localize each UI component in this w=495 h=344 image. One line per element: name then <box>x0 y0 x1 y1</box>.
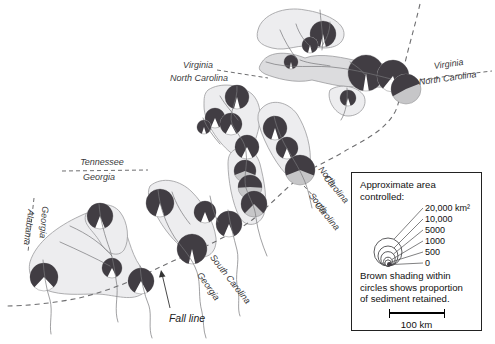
pie-marker <box>285 155 315 185</box>
legend-note: Brown shading within circles shows propo… <box>360 270 473 305</box>
scale-bar: 100 km <box>360 309 473 330</box>
scale-bar-label: 100 km <box>360 319 473 330</box>
legend-note-line3: of sediment retained. <box>360 293 473 305</box>
legend-title-line2: controlled: <box>360 191 473 203</box>
state-label-north-carolina-left: North Carolina <box>170 73 228 83</box>
state-label-alabama-vertical: Alabama <box>22 208 36 245</box>
pie-marker <box>128 268 154 294</box>
pie-marker <box>284 55 298 69</box>
legend-size-svg: 20,000 km² 10,000 5000 1000 500 0 <box>360 204 473 270</box>
pie-marker <box>30 263 58 291</box>
fall-line-arrow-head <box>159 270 166 278</box>
state-label-georgia-vertical: Georgia <box>38 206 51 239</box>
pie-marker <box>177 234 207 264</box>
legend-size-label-10000: 10,000 <box>425 214 453 224</box>
state-label-north-carolina-right: North Carolina <box>418 69 477 87</box>
legend-size-label-0: 0 <box>425 258 430 268</box>
fall-line-label: Fall line <box>169 312 205 324</box>
legend-size-label-20000: 20,000 km² <box>425 204 470 213</box>
scale-bar-rule <box>389 309 445 318</box>
pie-marker <box>87 203 113 229</box>
legend-note-line2: circles shows proportion <box>360 282 473 294</box>
figure-root: VirginiaNorth CarolinaVirginiaNorth Caro… <box>0 0 495 344</box>
pie-marker <box>197 120 211 134</box>
state-boundary-dash <box>62 170 148 171</box>
pie-marker <box>302 37 318 53</box>
legend-title: Approximate area controlled: <box>360 179 473 202</box>
legend-zero-dot <box>387 262 392 267</box>
legend-note-line1: Brown shading within <box>360 270 473 282</box>
state-label-tennessee: Tennessee <box>80 157 124 167</box>
legend-size-label-500: 500 <box>425 247 440 257</box>
state-label-georgia-tennessee: Georgia <box>83 172 115 182</box>
legend-size-label-1000: 1000 <box>425 236 445 246</box>
legend-box: Approximate area controlled: 20,000 km² … <box>351 172 482 331</box>
pie-marker <box>340 90 356 106</box>
legend-size-label-5000: 5000 <box>425 225 445 235</box>
pie-marker <box>391 74 421 104</box>
state-label-virginia-left: Virginia <box>183 60 213 70</box>
state-label-virginia-right: Virginia <box>433 57 464 71</box>
pie-marker <box>194 201 216 223</box>
pie-marker <box>102 258 122 278</box>
pie-marker <box>235 135 259 159</box>
pie-marker <box>241 191 267 217</box>
legend-title-line1: Approximate area <box>360 179 473 191</box>
fall-line-arrow-shaft <box>162 274 170 308</box>
scale-bar-line <box>390 312 444 314</box>
